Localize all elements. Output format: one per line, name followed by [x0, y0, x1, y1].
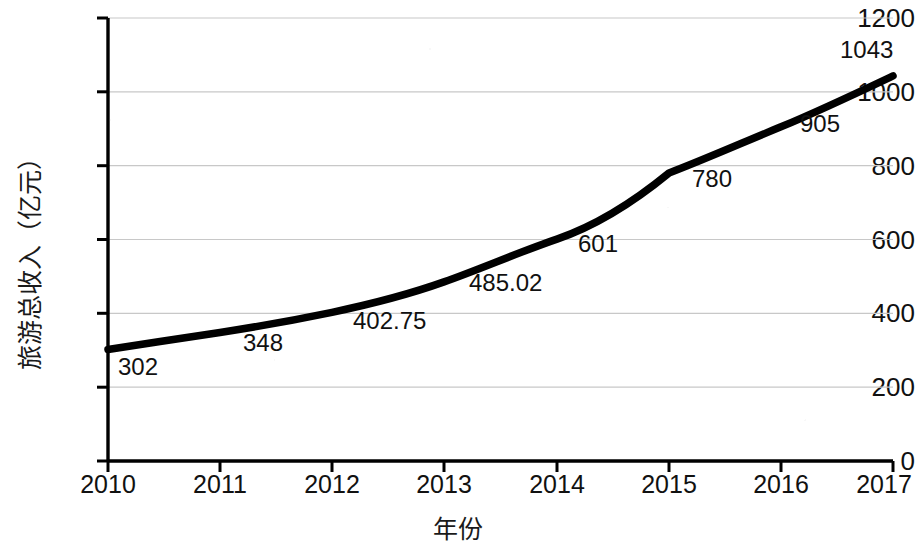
data-series-line	[108, 76, 893, 350]
plot-area	[0, 0, 915, 546]
data-label-2014: 601	[578, 232, 618, 256]
x-tick-label-2015: 2015	[609, 472, 729, 497]
line-chart: 旅游总收入（亿元） 1200 1000 800 600 400 200 0	[0, 0, 915, 546]
data-label-2016: 905	[800, 112, 840, 136]
x-tick-label-2017: 2017	[824, 472, 915, 497]
x-tick-label-2016: 2016	[721, 472, 841, 497]
x-tick-label-2013: 2013	[384, 472, 504, 497]
x-tick-label-2010: 2010	[48, 472, 168, 497]
data-label-2011: 348	[243, 331, 283, 355]
x-tick-label-2011: 2011	[160, 472, 280, 497]
data-label-2012: 402.75	[353, 309, 426, 333]
x-tick-label-2012: 2012	[272, 472, 392, 497]
data-label-2010: 302	[118, 355, 158, 379]
data-label-2017: 1043	[840, 38, 893, 62]
x-axis-title: 年份	[0, 509, 915, 545]
x-tick-label-2014: 2014	[497, 472, 617, 497]
data-label-2013: 485.02	[469, 271, 542, 295]
data-label-2015: 780	[692, 167, 732, 191]
